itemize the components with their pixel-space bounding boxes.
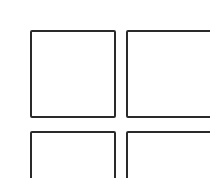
tile-top-right[interactable] [126,30,210,118]
tile-top-left[interactable] [30,30,116,118]
tile-bottom-right[interactable] [126,131,210,178]
tile-bottom-left[interactable] [30,131,116,178]
